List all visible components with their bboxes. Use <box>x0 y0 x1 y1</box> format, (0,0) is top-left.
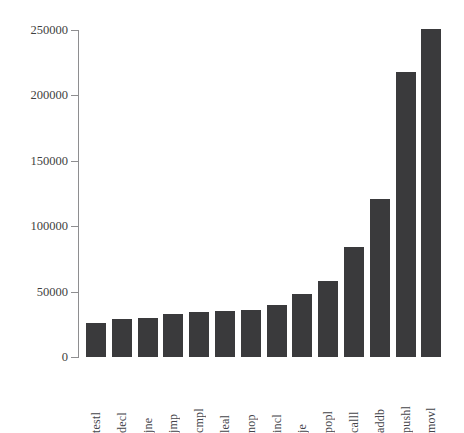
bar <box>241 310 261 357</box>
x-axis-tick-label: je <box>296 371 310 433</box>
x-axis-tick-label: addb <box>374 371 388 433</box>
bar <box>189 312 209 357</box>
bar <box>318 281 338 357</box>
bar <box>163 314 183 357</box>
x-axis-tick-label: popl <box>322 371 336 433</box>
x-axis-tick-label: jne <box>142 371 156 433</box>
bars-layer: testldecljnejmpcmpllealnopincljepoplcall… <box>0 0 464 433</box>
x-axis-tick-label: calll <box>348 371 362 433</box>
bar <box>396 72 416 357</box>
bar <box>138 318 158 357</box>
x-axis-tick-label: decl <box>116 371 130 433</box>
bar <box>370 199 390 357</box>
bar-chart: 250000200000150000100000500000 testldecl… <box>0 0 464 433</box>
bar <box>215 311 235 357</box>
bar <box>86 323 106 357</box>
x-axis-tick-label: movl <box>425 371 439 433</box>
x-axis-tick-label: leal <box>219 371 233 433</box>
bar <box>421 29 441 357</box>
x-axis-tick-label: incl <box>271 371 285 433</box>
x-axis-tick-label: nop <box>245 371 259 433</box>
x-axis-tick-label: cmpl <box>193 371 207 433</box>
x-axis-tick-label: testl <box>90 371 104 433</box>
bar <box>112 319 132 357</box>
bar <box>344 247 364 357</box>
x-axis-tick-label: jmp <box>167 371 181 433</box>
bar <box>267 305 287 357</box>
bar <box>292 294 312 357</box>
x-axis-tick-label: pushl <box>400 371 414 433</box>
